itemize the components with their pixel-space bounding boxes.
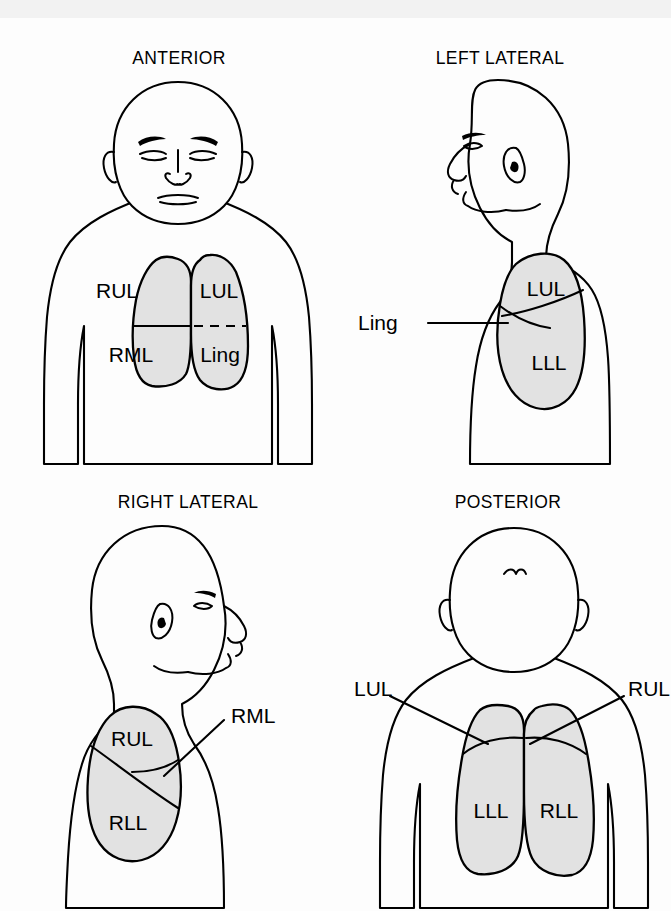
panel-art-left-lateral: Ling LUL LLL bbox=[350, 74, 650, 464]
callout-label-ling-left-lateral: Ling bbox=[358, 311, 398, 334]
lobe-label-lll-left-lateral: LLL bbox=[531, 351, 566, 374]
lobe-label-rll-posterior: RLL bbox=[540, 799, 579, 822]
panel-left-lateral: LEFT LATERAL bbox=[350, 48, 650, 468]
lobe-label-lll-posterior: LLL bbox=[473, 799, 508, 822]
callout-label-rml-right-lateral: RML bbox=[231, 704, 275, 727]
scan-artifact-band bbox=[0, 0, 671, 18]
lobe-label-rul-anterior: RUL bbox=[96, 279, 138, 302]
panel-art-anterior: RUL RML LUL Ling bbox=[34, 74, 324, 464]
lobe-label-lul-left-lateral: LUL bbox=[527, 277, 566, 300]
lobe-label-lul-anterior: LUL bbox=[200, 279, 239, 302]
callout-label-lul-posterior: LUL bbox=[354, 677, 393, 700]
head-outline-posterior bbox=[450, 528, 579, 672]
panel-right-lateral: RIGHT LATERAL bbox=[28, 492, 348, 911]
panel-art-posterior: LUL RUL LLL RLL bbox=[352, 518, 664, 908]
panel-art-right-lateral: RML RUL RLL bbox=[28, 518, 348, 908]
figure-sheet: ANTERIOR bbox=[0, 0, 671, 911]
panel-anterior: ANTERIOR bbox=[34, 48, 324, 468]
panel-title-anterior: ANTERIOR bbox=[34, 48, 324, 69]
panel-title-left-lateral: LEFT LATERAL bbox=[350, 48, 650, 69]
lobe-label-rml-anterior: RML bbox=[109, 343, 153, 366]
callout-label-rul-posterior: RUL bbox=[628, 677, 670, 700]
panel-posterior: POSTERIOR bbox=[352, 492, 664, 911]
lobe-label-rul-right-lateral: RUL bbox=[111, 727, 153, 750]
panel-title-right-lateral: RIGHT LATERAL bbox=[28, 492, 348, 513]
panel-title-posterior: POSTERIOR bbox=[352, 492, 664, 513]
lobe-label-ling-anterior: Ling bbox=[200, 343, 240, 366]
lobe-label-rll-right-lateral: RLL bbox=[109, 811, 148, 834]
